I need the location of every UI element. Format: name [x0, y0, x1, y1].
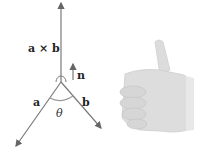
thumbs-up-hand-icon	[120, 40, 194, 132]
vector-a	[16, 82, 61, 146]
angle-arc	[50, 96, 73, 101]
cross-product-diagram: a × b n a b θ	[0, 0, 209, 155]
normal-label: n	[77, 69, 85, 82]
angle-label: θ	[56, 107, 63, 120]
vector-a-label: a	[33, 96, 40, 109]
vector-b-label: b	[82, 96, 90, 109]
vector-b	[61, 82, 101, 128]
cross-product-label: a × b	[28, 42, 60, 55]
